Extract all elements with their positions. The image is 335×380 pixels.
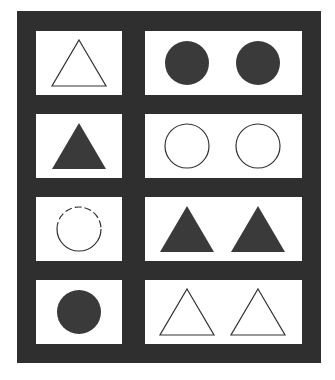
right-cell-row-2 <box>145 114 302 178</box>
dashed-circle-shape <box>57 207 101 251</box>
cell-canvas <box>36 114 122 178</box>
outline-triangle-shape <box>52 40 106 86</box>
left-cell-row-3 <box>36 197 122 261</box>
filled-circle-shape <box>236 41 280 85</box>
outline-triangle-shape <box>231 289 285 335</box>
cell-canvas <box>36 197 122 261</box>
cell-canvas <box>36 31 122 95</box>
filled-circle-shape <box>165 41 209 85</box>
cell-canvas <box>145 114 302 178</box>
left-cell-row-1 <box>36 31 122 95</box>
cell-canvas <box>36 280 122 344</box>
outline-triangle-shape <box>160 289 214 335</box>
outline-circle-shape <box>236 124 280 168</box>
left-cell-row-4 <box>36 280 122 344</box>
cell-canvas <box>145 31 302 95</box>
filled-circle-shape <box>57 290 101 334</box>
left-cell-row-2 <box>36 114 122 178</box>
right-cell-row-3 <box>145 197 302 261</box>
filled-triangle-shape <box>52 123 106 169</box>
filled-triangle-shape <box>160 206 214 252</box>
right-cell-row-1 <box>145 31 302 95</box>
outline-circle-shape <box>165 124 209 168</box>
filled-triangle-shape <box>231 206 285 252</box>
right-cell-row-4 <box>145 280 302 344</box>
cell-canvas <box>145 280 302 344</box>
cell-canvas <box>145 197 302 261</box>
